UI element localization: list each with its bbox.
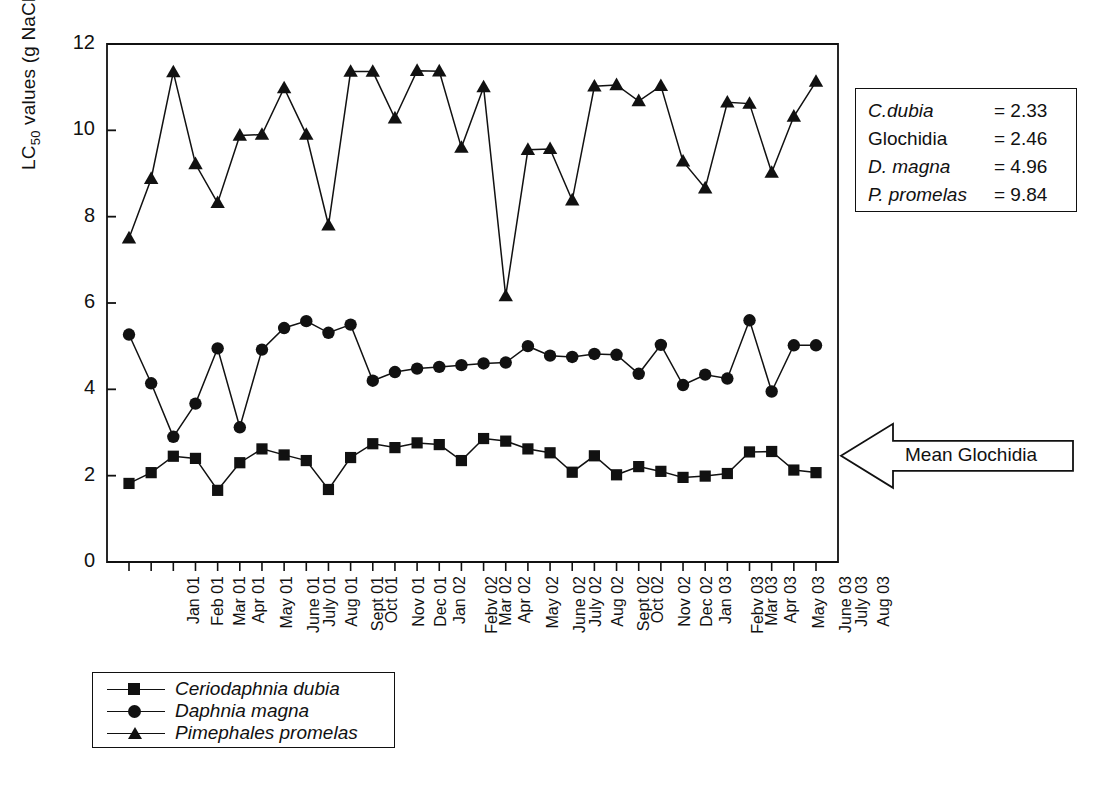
legend-label: Ceriodaphnia dubia — [167, 678, 340, 700]
data-point-circle — [477, 357, 489, 369]
stat-name: D. magna — [868, 153, 994, 181]
y-axis-tick-label: 10 — [65, 117, 95, 140]
data-point-square — [256, 443, 267, 454]
stat-name: C.dubia — [868, 97, 994, 125]
x-axis-tick-label: Nov 01 — [409, 576, 427, 627]
data-point-triangle — [543, 141, 557, 154]
data-point-triangle — [122, 231, 136, 244]
data-point-square — [123, 478, 134, 489]
data-point-square — [766, 446, 777, 457]
x-axis-tick-label: Nov 02 — [675, 576, 693, 627]
data-point-square — [434, 439, 445, 450]
x-axis-tick-label: Apr 02 — [517, 576, 535, 623]
data-point-circle — [300, 315, 312, 327]
data-point-circle — [367, 375, 379, 387]
y-axis-tick-label: 4 — [65, 376, 95, 399]
series-line-square — [129, 439, 816, 491]
data-point-square — [301, 455, 312, 466]
data-point-square — [456, 455, 467, 466]
legend-entry: Daphnia magna — [93, 700, 394, 722]
triangle-marker-icon — [105, 722, 167, 744]
x-axis-tick-label: Aug 03 — [875, 576, 893, 627]
data-point-triangle — [388, 111, 402, 124]
data-point-triangle — [277, 81, 291, 94]
data-point-square — [744, 446, 755, 457]
data-point-square — [190, 453, 201, 464]
data-point-square — [146, 467, 157, 478]
chart-figure: LC50 values (g NaCl/L) C.dubia= 2.33Gloc… — [0, 0, 1100, 798]
y-axis-tick-label: 12 — [65, 31, 95, 54]
data-point-triangle — [343, 64, 357, 77]
axes-frame — [107, 44, 838, 562]
data-point-triangle — [454, 140, 468, 153]
x-axis-tick-label: Mar 03 — [763, 576, 781, 626]
x-axis-tick-label: Mar 01 — [231, 576, 249, 626]
data-point-circle — [588, 348, 600, 360]
legend-box: Ceriodaphnia dubiaDaphnia magnaPimephale… — [92, 672, 395, 748]
x-axis-tick-label: July 01 — [321, 576, 339, 627]
data-point-triangle — [676, 154, 690, 167]
x-axis-tick-label: Aug 02 — [609, 576, 627, 627]
data-point-triangle — [587, 79, 601, 92]
legend-marker — [128, 705, 141, 718]
data-point-circle — [721, 372, 733, 384]
legend-marker — [128, 727, 142, 739]
data-point-circle — [677, 379, 689, 391]
stat-row: Glochidia= 2.46 — [868, 125, 1066, 153]
data-point-triangle — [299, 127, 313, 140]
data-point-circle — [699, 368, 711, 380]
x-axis-tick-label: Jan 01 — [185, 576, 203, 624]
data-point-square — [522, 443, 533, 454]
stat-name: P. promelas — [868, 181, 994, 209]
stat-row: P. promelas= 9.84 — [868, 181, 1066, 209]
x-axis-tick-label: Mar 02 — [497, 576, 515, 626]
legend-marker — [128, 683, 140, 695]
data-point-circle — [167, 431, 179, 443]
x-axis-tick-label: Aug 01 — [343, 576, 361, 627]
x-axis-tick-label: July 02 — [587, 576, 605, 627]
legend-label: Daphnia magna — [167, 700, 309, 722]
data-point-square — [567, 467, 578, 478]
x-axis-tick-label: Oct 01 — [384, 576, 402, 623]
data-point-square — [788, 464, 799, 475]
data-point-triangle — [432, 64, 446, 77]
y-axis-tick-label: 2 — [65, 463, 95, 486]
data-point-circle — [500, 356, 512, 368]
y-axis-tick-label: 8 — [65, 204, 95, 227]
stat-value: = 2.33 — [994, 97, 1047, 125]
mean-glochidia-annotation-label: Mean Glochidia — [905, 444, 1037, 466]
data-point-triangle — [255, 127, 269, 140]
data-point-triangle — [609, 78, 623, 91]
data-point-circle — [633, 368, 645, 380]
data-point-circle — [389, 366, 401, 378]
data-point-circle — [234, 421, 246, 433]
data-point-triangle — [144, 171, 158, 184]
x-axis-tick-label: Jan 02 — [451, 576, 469, 624]
data-point-square — [168, 451, 179, 462]
data-point-triangle — [654, 78, 668, 91]
stat-value: = 4.96 — [994, 153, 1047, 181]
data-point-triangle — [521, 142, 535, 155]
data-point-triangle — [233, 128, 247, 141]
data-point-triangle — [188, 157, 202, 170]
data-point-circle — [788, 339, 800, 351]
data-point-square — [589, 450, 600, 461]
data-point-square — [677, 472, 688, 483]
data-point-triangle — [321, 218, 335, 231]
x-axis-tick-label: Jan 03 — [717, 576, 735, 624]
data-point-triangle — [720, 95, 734, 108]
data-point-square — [345, 452, 356, 463]
data-point-circle — [765, 385, 777, 397]
y-axis-tick-label: 0 — [65, 549, 95, 572]
x-axis-tick-label: Apr 01 — [251, 576, 269, 623]
data-point-triangle — [787, 109, 801, 122]
data-point-triangle — [632, 94, 646, 107]
legend-entry: Pimephales promelas — [93, 722, 394, 744]
data-point-circle — [544, 349, 556, 361]
data-point-circle — [189, 397, 201, 409]
x-axis-tick-label: July 03 — [853, 576, 871, 627]
data-point-square — [478, 433, 489, 444]
series-line-triangle — [129, 71, 816, 296]
stat-value: = 9.84 — [994, 181, 1047, 209]
x-axis-tick-label: Dec 01 — [431, 576, 449, 627]
